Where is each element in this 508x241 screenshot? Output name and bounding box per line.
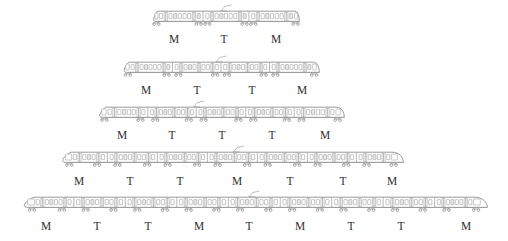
car-label-row: MTTMTMTTM [0,220,508,236]
car-label: M [117,129,127,142]
train-side-profile [59,149,404,171]
car-label-row: MTTTM [0,129,508,145]
car-label: M [320,129,330,142]
car-label: T [339,175,346,188]
car-label: T [126,175,133,188]
car-label-row: MTTMTTM [0,175,508,191]
car-label: M [297,84,307,97]
car-label: T [220,33,227,46]
car-label: T [218,129,225,142]
car-label: M [271,33,281,46]
car-label: T [397,220,404,233]
train-side-profile [122,59,320,81]
car-label: T [347,220,354,233]
car-label: T [245,220,252,233]
car-label: M [194,220,204,233]
train-side-profile [20,194,488,216]
car-label: T [286,175,293,188]
car-label: T [168,129,175,142]
car-label: T [268,129,275,142]
train-side-profile [152,8,300,30]
car-label: M [295,220,305,233]
car-label: M [461,220,471,233]
car-label: M [232,175,242,188]
car-label: M [387,175,397,188]
car-label-row: MTM [0,33,508,49]
car-label: T [93,220,100,233]
car-label: M [41,220,51,233]
car-label: T [176,175,183,188]
car-label: T [248,84,255,97]
car-label: T [193,84,200,97]
car-label-row: MTTM [0,84,508,100]
car-label: M [169,33,179,46]
car-label: M [141,84,151,97]
car-label: T [144,220,151,233]
train-side-profile [97,104,345,126]
train-formation-figure: MTMMTTMMTTTMMTTMTTMMTTMTMTTM [0,0,508,241]
car-label: M [74,175,84,188]
